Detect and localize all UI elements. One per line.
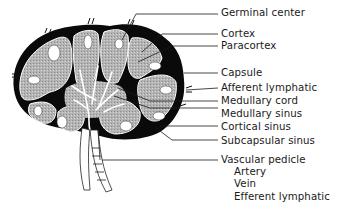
label-artery: Artery [234,166,266,178]
label-vascular-pedicle: Vascular pedicle [221,154,306,166]
label-cortical-sinus: Cortical sinus [221,121,291,133]
label-subcapsular-sinus: Subcapsular sinus [221,135,315,147]
label-afferent-lymphatic: Afferent lymphatic [221,82,317,94]
label-capsule: Capsule [221,67,262,79]
label-medullary-cord: Medullary cord [221,95,298,107]
label-cortex: Cortex [221,28,255,40]
label-efferent-lymphatic: Efferent lymphatic [234,191,330,203]
label-paracortex: Paracortex [221,40,277,52]
label-vein: Vein [234,178,256,190]
lymph-node-diagram [0,0,340,214]
label-medullary-sinus: Medullary sinus [221,108,302,120]
label-germinal-center: Germinal center [221,7,305,19]
